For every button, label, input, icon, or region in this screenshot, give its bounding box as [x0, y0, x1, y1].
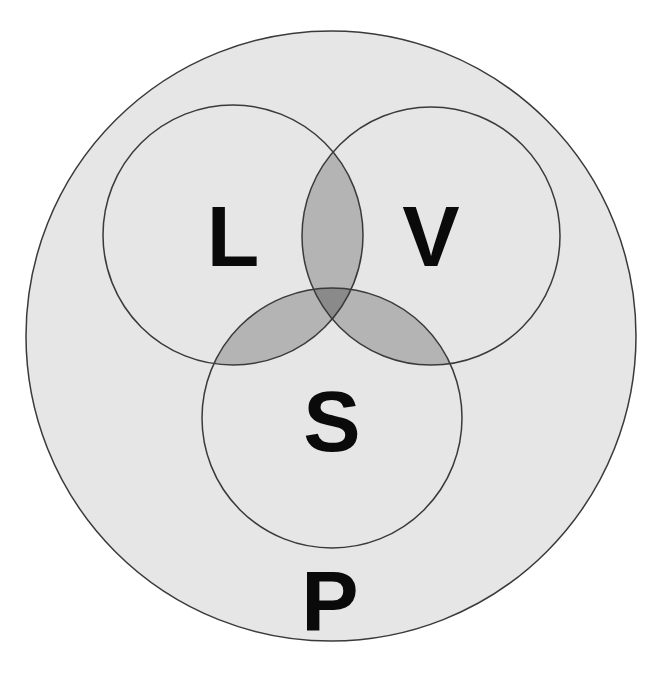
label-s: S: [303, 373, 360, 469]
label-p: P: [301, 553, 358, 649]
label-l: L: [207, 188, 260, 284]
venn-diagram: L V S P: [0, 0, 655, 674]
label-v: V: [402, 188, 459, 284]
outer-circle-p: [26, 31, 636, 641]
